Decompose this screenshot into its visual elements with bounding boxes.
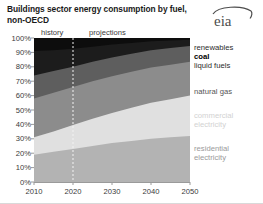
legend-item-natural-gas: natural gas: [194, 88, 232, 97]
x-tick-label-2020: 2020: [53, 187, 93, 196]
x-tick-label-2040: 2040: [131, 187, 171, 196]
chart-figure: Buildings sector energy consumption by f…: [0, 0, 263, 204]
legend-item-commercial-electricity: commercial electricity: [194, 112, 233, 129]
chart-legend: renewablescoalliquid fuelsnatural gascom…: [194, 0, 263, 204]
legend-item-liquid-fuels: liquid fuels: [194, 62, 230, 71]
legend-item-residential-electricity: residential electricity: [194, 145, 229, 162]
x-tick-label-2010: 2010: [14, 187, 54, 196]
x-tick-label-2030: 2030: [92, 187, 132, 196]
